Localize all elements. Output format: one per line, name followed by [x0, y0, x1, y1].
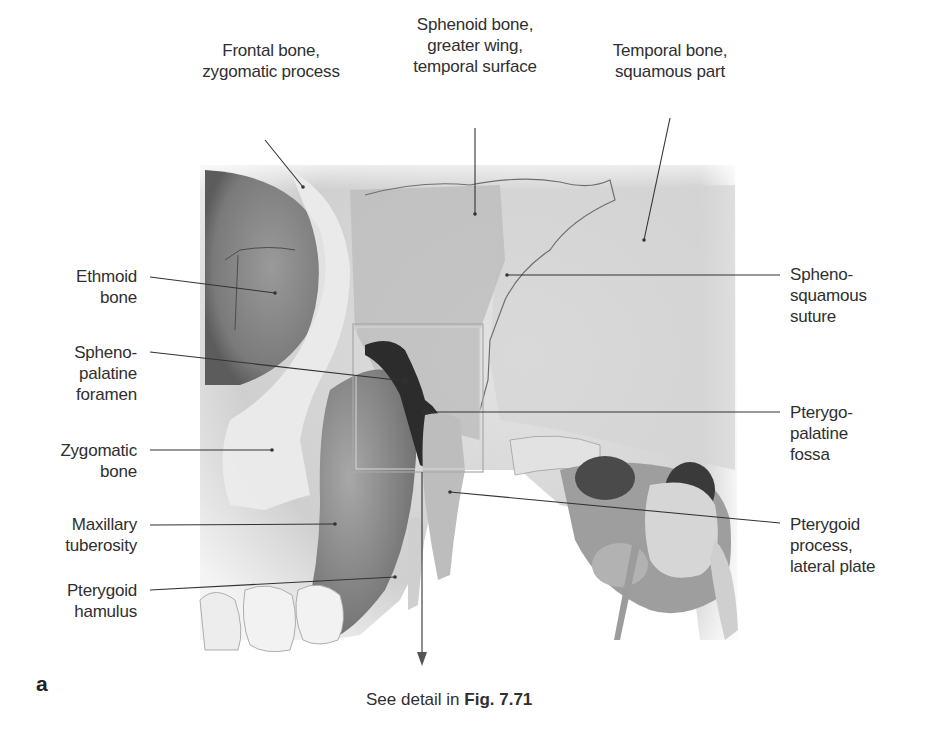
- label-frontal-bone-zygomatic-process: Frontal bone, zygomatic process: [196, 40, 346, 82]
- figure-caption: See detail in Fig. 7.71: [366, 690, 532, 710]
- label-temporal-bone-squamous-part: Temporal bone, squamous part: [590, 40, 750, 82]
- label-pterygopalatine-fossa: Pterygo- palatine fossa: [790, 402, 920, 465]
- skull-illustration: [0, 0, 931, 733]
- label-pterygoid-process-lateral-plate: Pterygoid process, lateral plate: [790, 514, 920, 577]
- label-sphenosquamous-suture: Spheno- squamous suture: [790, 264, 920, 327]
- panel-letter: a: [36, 672, 48, 696]
- label-zygomatic-bone: Zygomatic bone: [30, 440, 137, 482]
- caption-prefix: See detail in: [366, 690, 464, 709]
- label-sphenopalatine-foramen: Spheno- palatine foramen: [30, 342, 137, 405]
- label-ethmoid-bone: Ethmoid bone: [30, 266, 137, 308]
- anatomy-figure: Frontal bone, zygomatic process Sphenoid…: [0, 0, 931, 733]
- label-sphenoid-bone-greater-wing: Sphenoid bone, greater wing, temporal su…: [390, 14, 560, 77]
- label-pterygoid-hamulus: Pterygoid hamulus: [30, 580, 137, 622]
- caption-figure-reference: Fig. 7.71: [464, 690, 532, 709]
- label-maxillary-tuberosity: Maxillary tuberosity: [30, 514, 137, 556]
